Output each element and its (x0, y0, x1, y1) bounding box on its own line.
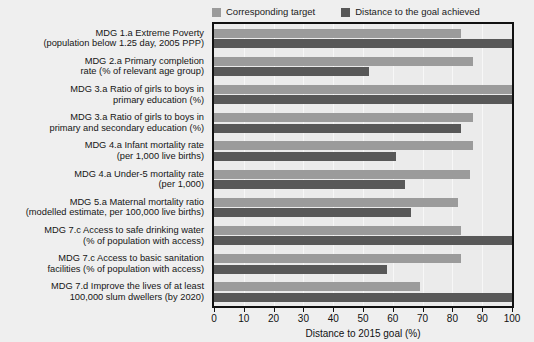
bar-achieved[interactable] (214, 67, 369, 76)
x-tick-mark (333, 308, 334, 312)
legend-entry[interactable]: Corresponding target (212, 7, 315, 17)
category-label-line: primary education (%) (0, 95, 204, 106)
category-label: MDG 3.a Ratio of girls to boys inprimary… (0, 84, 204, 105)
bar-target[interactable] (214, 85, 512, 94)
bar-achieved[interactable] (214, 180, 405, 189)
x-tick-label: 10 (238, 313, 249, 324)
category-label-line: (modelled estimate, per 100,000 live bir… (0, 207, 204, 218)
category-label: MDG 1.a Extreme Poverty(population below… (0, 28, 204, 49)
x-tick-mark (393, 308, 394, 312)
legend-label: Distance to the goal achieved (355, 7, 480, 17)
bar-target[interactable] (214, 198, 458, 207)
category-label-line: (per 1,000) (0, 179, 204, 190)
x-tick-label: 50 (357, 313, 368, 324)
bar-achieved[interactable] (214, 236, 512, 245)
x-tick-mark (363, 308, 364, 312)
x-axis-title: Distance to 2015 goal (%) (212, 328, 514, 339)
category-label: MDG 2.a Primary completionrate (% of rel… (0, 56, 204, 77)
category-label-line: rate (% of relevant age group) (0, 66, 204, 77)
bar-group (214, 250, 512, 278)
bar-group (214, 24, 512, 52)
legend-label: Corresponding target (226, 7, 315, 17)
category-label-line: MDG 7.c Access to basic sanitation (0, 253, 204, 264)
x-tick-label: 30 (298, 313, 309, 324)
category-label-line: MDG 1.a Extreme Poverty (0, 28, 204, 39)
category-axis-labels: MDG 1.a Extreme Poverty(population below… (0, 22, 208, 308)
category-label-line: MDG 4.a Under-5 mortality rate (0, 169, 204, 180)
bar-group (214, 137, 512, 165)
x-tick-mark (512, 308, 513, 312)
bar-group (214, 221, 512, 249)
x-tick-mark (244, 308, 245, 312)
square-swatch-icon (341, 8, 350, 17)
bar-achieved[interactable] (214, 265, 387, 274)
plot-area (212, 22, 514, 308)
bar-achieved[interactable] (214, 208, 411, 217)
bar-target[interactable] (214, 170, 470, 179)
bar-group (214, 278, 512, 306)
x-tick-label: 80 (447, 313, 458, 324)
x-tick-label: 60 (387, 313, 398, 324)
x-tick-label: 90 (477, 313, 488, 324)
x-tick-mark (303, 308, 304, 312)
square-swatch-icon (212, 8, 221, 17)
category-label-line: 100,000 slum dwellers (by 2020) (0, 292, 204, 303)
category-label-line: MDG 2.a Primary completion (0, 56, 204, 67)
bar-group (214, 165, 512, 193)
x-tick-label: 0 (211, 313, 217, 324)
category-label: MDG 4.a Infant mortality rate(per 1,000 … (0, 140, 204, 161)
x-tick-label: 40 (328, 313, 339, 324)
bar-target[interactable] (214, 57, 473, 66)
bar-achieved[interactable] (214, 152, 396, 161)
legend-entry[interactable]: Distance to the goal achieved (341, 7, 480, 17)
category-label: MDG 7.c Access to safe drinking water(% … (0, 225, 204, 246)
bars-layer (214, 24, 512, 306)
category-label-line: MDG 7.d Improve the lives of at least (0, 281, 204, 292)
x-tick-mark (452, 308, 453, 312)
category-label-line: MDG 5.a Maternal mortality ratio (0, 197, 204, 208)
x-tick-label: 20 (268, 313, 279, 324)
category-label-line: (% of population with access) (0, 236, 204, 247)
bar-achieved[interactable] (214, 124, 461, 133)
bar-target[interactable] (214, 254, 461, 263)
x-tick-label: 70 (417, 313, 428, 324)
bar-group (214, 109, 512, 137)
category-label: MDG 3.a Ratio of girls to boys inprimary… (0, 112, 204, 133)
category-label-line: (per 1,000 live births) (0, 151, 204, 162)
category-label: MDG 7.c Access to basic sanitationfacili… (0, 253, 204, 274)
bar-target[interactable] (214, 29, 461, 38)
category-label-line: MDG 3.a Ratio of girls to boys in (0, 84, 204, 95)
bar-achieved[interactable] (214, 95, 512, 104)
gridline (512, 24, 513, 306)
category-label-line: facilities (% of population with access) (0, 264, 204, 275)
chart-legend: Corresponding targetDistance to the goal… (212, 3, 534, 21)
bar-achieved[interactable] (214, 39, 512, 48)
x-tick-label: 100 (504, 313, 521, 324)
category-label-line: MDG 7.c Access to safe drinking water (0, 225, 204, 236)
category-label: MDG 5.a Maternal mortality ratio(modelle… (0, 197, 204, 218)
category-label-line: (population below 1.25 day, 2005 PPP) (0, 38, 204, 49)
category-label: MDG 7.d Improve the lives of at least100… (0, 281, 204, 302)
category-label-line: MDG 4.a Infant mortality rate (0, 140, 204, 151)
mdg-progress-bar-chart: Corresponding targetDistance to the goal… (0, 0, 534, 342)
x-tick-mark (423, 308, 424, 312)
bar-target[interactable] (214, 226, 461, 235)
x-tick-mark (214, 308, 215, 312)
bar-achieved[interactable] (214, 293, 512, 302)
x-tick-mark (274, 308, 275, 312)
x-tick-mark (482, 308, 483, 312)
bar-group (214, 80, 512, 108)
bar-target[interactable] (214, 282, 420, 291)
bar-group (214, 52, 512, 80)
value-axis: Distance to 2015 goal (%) 01020304050607… (212, 308, 514, 342)
bar-target[interactable] (214, 141, 473, 150)
category-label: MDG 4.a Under-5 mortality rate(per 1,000… (0, 169, 204, 190)
category-label-line: primary and secondary education (%) (0, 123, 204, 134)
bar-group (214, 193, 512, 221)
bar-target[interactable] (214, 113, 473, 122)
category-label-line: MDG 3.a Ratio of girls to boys in (0, 112, 204, 123)
